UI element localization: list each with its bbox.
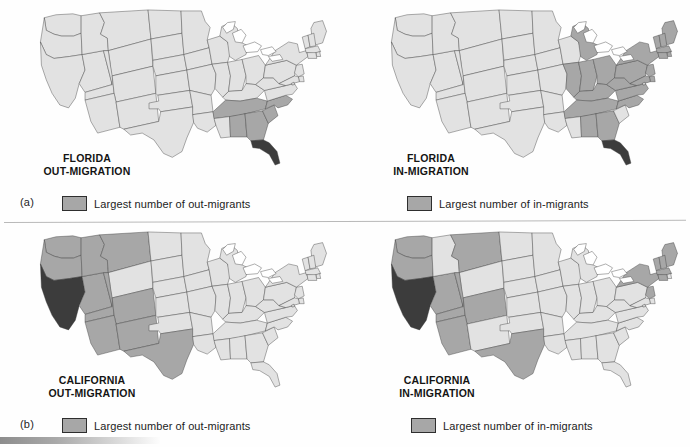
state-az[interactable] (436, 93, 471, 133)
state-al[interactable] (581, 336, 598, 359)
legend-california-in-migration: Largest number of in-migrants (411, 418, 593, 433)
state-fl[interactable] (251, 362, 280, 387)
great-lake-3 (594, 42, 612, 53)
legend-swatch-icon (411, 418, 436, 433)
map-title-california-in-migration: CALIFORNIA IN-MIGRATION (367, 374, 507, 399)
part-label-b: (b) (20, 418, 34, 430)
bottom-gradient-rule (0, 437, 160, 444)
legend-florida-in-migration: Largest number of in-migrants (407, 196, 589, 211)
state-la[interactable] (544, 334, 567, 354)
map-title-line1: CALIFORNIA (22, 374, 162, 387)
great-lake-3 (243, 42, 261, 53)
state-al[interactable] (230, 336, 247, 359)
state-al[interactable] (230, 114, 247, 137)
legend-swatch-icon (62, 196, 87, 211)
us-map-florida-in-migration[interactable] (373, 8, 690, 168)
legend-label: Largest number of out-migrants (94, 198, 250, 210)
legend-label: Largest number of in-migrants (439, 198, 589, 210)
state-al[interactable] (581, 114, 598, 137)
legend-label: Largest number of out-migrants (94, 420, 250, 432)
map-panel-florida-out-migration: FLORIDA OUT-MIGRATION (a) Largest number… (0, 4, 345, 222)
great-lake-3 (594, 264, 612, 275)
state-ms[interactable] (214, 339, 230, 360)
state-la[interactable] (544, 112, 567, 132)
map-panel-california-out-migration: CALIFORNIA OUT-MIGRATION (b) Largest num… (0, 226, 345, 444)
map-panel-florida-in-migration: FLORIDA IN-MIGRATION Largest number of i… (345, 4, 690, 222)
part-label-a: (a) (20, 196, 34, 208)
state-mn[interactable] (181, 11, 210, 55)
map-title-florida-out-migration: FLORIDA OUT-MIGRATION (28, 152, 146, 177)
map-title-california-out-migration: CALIFORNIA OUT-MIGRATION (22, 374, 162, 399)
state-ms[interactable] (565, 117, 581, 138)
great-lake-3 (243, 264, 261, 275)
legend-california-out-migration: Largest number of out-migrants (62, 418, 250, 433)
map-title-line2: OUT-MIGRATION (28, 165, 146, 178)
state-ct[interactable] (307, 275, 317, 281)
state-fl[interactable] (602, 362, 631, 387)
state-fl[interactable] (602, 140, 631, 165)
map-title-line1: FLORIDA (28, 152, 146, 165)
state-az[interactable] (85, 93, 120, 133)
figure-page: FLORIDA OUT-MIGRATION (a) Largest number… (0, 0, 690, 447)
state-ms[interactable] (565, 339, 581, 360)
state-mn[interactable] (532, 233, 561, 277)
legend-swatch-icon (407, 196, 432, 211)
map-panel-california-in-migration: CALIFORNIA IN-MIGRATION Largest number o… (345, 226, 690, 444)
state-mn[interactable] (181, 233, 210, 277)
map-title-line2: OUT-MIGRATION (22, 387, 162, 400)
state-la[interactable] (193, 112, 216, 132)
state-la[interactable] (193, 334, 216, 354)
map-title-line2: IN-MIGRATION (372, 165, 490, 178)
us-map-california-out-migration[interactable] (22, 230, 342, 390)
state-az[interactable] (436, 315, 471, 355)
legend-florida-out-migration: Largest number of out-migrants (62, 196, 250, 211)
state-ct[interactable] (658, 275, 668, 281)
map-title-line1: CALIFORNIA (367, 374, 507, 387)
us-map-florida-out-migration[interactable] (22, 8, 342, 168)
legend-label: Largest number of in-migrants (443, 420, 593, 432)
map-title-florida-in-migration: FLORIDA IN-MIGRATION (372, 152, 490, 177)
state-mn[interactable] (532, 11, 561, 55)
state-fl[interactable] (251, 140, 280, 165)
map-title-line1: FLORIDA (372, 152, 490, 165)
state-ms[interactable] (214, 117, 230, 138)
state-ct[interactable] (307, 53, 317, 59)
legend-swatch-icon (62, 418, 87, 433)
state-ct[interactable] (658, 53, 668, 59)
us-map-california-in-migration[interactable] (373, 230, 690, 390)
map-title-line2: IN-MIGRATION (367, 387, 507, 400)
state-az[interactable] (85, 315, 120, 355)
